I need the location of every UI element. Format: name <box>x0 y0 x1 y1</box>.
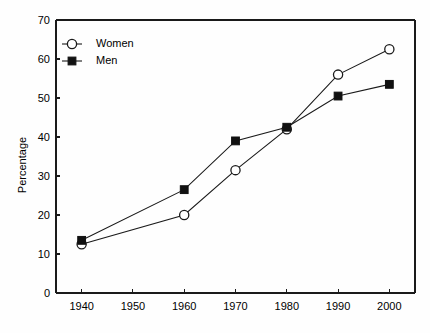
x-tick-label: 1950 <box>121 300 145 312</box>
legend-label-women: Women <box>96 37 134 49</box>
data-point-men-1940 <box>78 236 86 244</box>
data-point-women-1970 <box>231 166 240 175</box>
y-tick-label: 70 <box>38 14 50 26</box>
x-tick-label: 1940 <box>69 300 93 312</box>
y-tick-label: 40 <box>38 131 50 143</box>
y-tick-label: 10 <box>38 248 50 260</box>
x-tick-label: 2000 <box>377 300 401 312</box>
data-point-women-1960 <box>180 210 189 219</box>
y-tick-label: 60 <box>38 53 50 65</box>
data-point-men-2000 <box>385 80 393 88</box>
y-tick-label: 30 <box>38 170 50 182</box>
data-point-men-1970 <box>232 137 240 145</box>
x-tick-label: 1960 <box>172 300 196 312</box>
y-tick-label: 50 <box>38 92 50 104</box>
x-tick-label: 1980 <box>275 300 299 312</box>
data-point-men-1960 <box>180 186 188 194</box>
y-axis-title: Percentage <box>16 137 28 193</box>
x-tick-label: 1990 <box>326 300 350 312</box>
legend-marker-women <box>67 39 76 48</box>
y-tick-label: 20 <box>38 209 50 221</box>
y-tick-label: 0 <box>44 287 50 299</box>
legend-marker-men <box>68 57 76 65</box>
data-point-women-1990 <box>333 70 342 79</box>
legend-label-men: Men <box>96 54 117 66</box>
data-point-men-1980 <box>283 123 291 131</box>
data-point-men-1990 <box>334 92 342 100</box>
data-point-women-2000 <box>385 45 394 54</box>
chart-container: 010203040506070 194019501960197019801990… <box>0 0 430 333</box>
x-tick-label: 1970 <box>223 300 247 312</box>
line-chart: 010203040506070 194019501960197019801990… <box>0 0 430 333</box>
chart-background <box>0 0 430 333</box>
